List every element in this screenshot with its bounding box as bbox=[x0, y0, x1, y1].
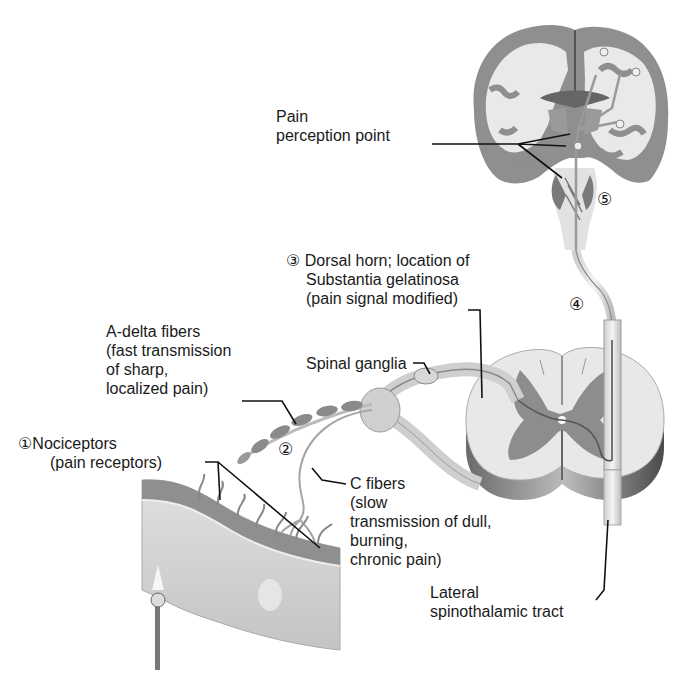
step-5-marker: ⑤ bbox=[597, 190, 612, 208]
step-3-marker: ③ bbox=[286, 251, 300, 270]
step-1-marker: ① bbox=[18, 434, 32, 453]
label-spinal-ganglia: Spinal ganglia bbox=[306, 354, 407, 373]
label-dorsal-horn: ③ Dorsal horn; location of Substantia ge… bbox=[286, 251, 469, 308]
label-nociceptors: ①Nociceptors (pain receptors) bbox=[18, 434, 162, 472]
spinal-cord-section bbox=[466, 320, 664, 525]
step-2-marker: ② bbox=[278, 440, 293, 458]
label-a-delta-fibers: A-delta fibers (fast transmission of sha… bbox=[106, 322, 231, 398]
brain-coronal-section bbox=[473, 25, 668, 252]
label-pain-perception-point: Pain perception point bbox=[276, 107, 390, 145]
label-lateral-spinothalamic-tract: Lateral spinothalamic tract bbox=[430, 583, 563, 621]
pain-pathway-illustration bbox=[0, 0, 690, 673]
step-4-marker: ④ bbox=[569, 295, 584, 313]
skin-tissue-block bbox=[142, 474, 340, 670]
label-c-fibers: C fibers (slow transmission of dull, bur… bbox=[350, 474, 491, 569]
